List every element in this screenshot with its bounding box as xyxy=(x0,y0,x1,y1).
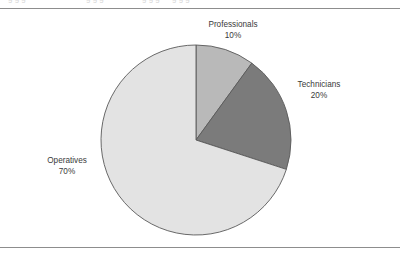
pie-label-value: 70% xyxy=(28,166,106,177)
pie-label-name: Technicians xyxy=(298,80,341,89)
pie-label-professionals: Professionals 10% xyxy=(192,19,274,41)
pie-label-name: Operatives xyxy=(47,156,87,165)
pie-label-operatives: Operatives 70% xyxy=(28,155,106,177)
pie-label-value: 10% xyxy=(192,30,274,41)
pie-slice-group xyxy=(101,45,291,235)
pie-label-name: Professionals xyxy=(208,20,257,29)
pie-label-value: 20% xyxy=(282,90,356,101)
figure-container: g g g g g g g g g g g g Professionals 10… xyxy=(0,0,400,259)
bottom-divider-rule xyxy=(0,247,400,248)
pie-label-technicians: Technicians 20% xyxy=(282,79,356,101)
